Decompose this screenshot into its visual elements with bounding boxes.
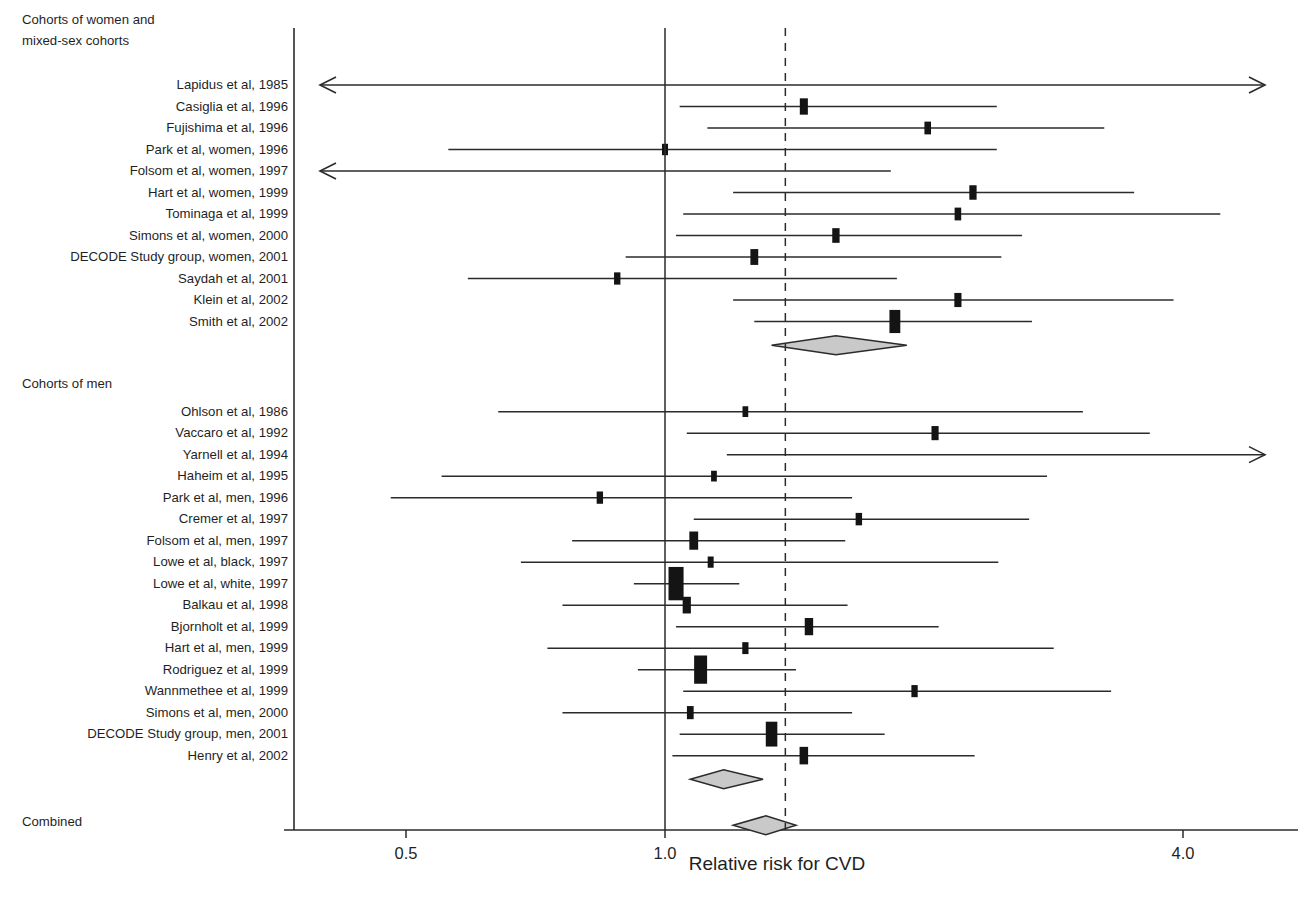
point-estimate-marker — [954, 293, 961, 307]
point-estimate-marker — [743, 406, 749, 417]
forest-row — [626, 249, 1002, 265]
forest-row — [694, 513, 1029, 525]
point-estimate-marker — [832, 228, 839, 243]
forest-row — [521, 557, 998, 568]
point-estimate-marker — [687, 706, 694, 719]
forest-row — [754, 310, 1032, 333]
point-estimate-marker — [669, 567, 684, 600]
men-summary-diamond — [690, 770, 763, 789]
point-estimate-marker — [805, 618, 813, 635]
point-estimate-marker — [911, 685, 917, 697]
point-estimate-marker — [597, 491, 603, 503]
forest-row — [468, 272, 897, 284]
forest-row — [676, 228, 1022, 243]
point-estimate-marker — [889, 310, 900, 333]
forest-row — [634, 567, 739, 600]
forest-row — [707, 122, 1104, 135]
point-estimate-marker — [856, 513, 862, 525]
forest-row — [442, 471, 1047, 482]
point-estimate-marker — [924, 122, 931, 135]
forest-row — [727, 447, 1265, 463]
forest-row — [562, 706, 852, 719]
forest-row — [391, 491, 852, 503]
point-estimate-marker — [742, 642, 748, 654]
point-estimate-marker — [711, 471, 717, 482]
forest-row — [733, 293, 1173, 307]
x-axis-title: Relative risk for CVD — [689, 853, 865, 875]
forest-plot-canvas — [0, 0, 1306, 904]
point-estimate-marker — [689, 532, 698, 550]
forest-row — [680, 722, 885, 747]
point-estimate-marker — [969, 185, 976, 199]
x-axis-tick-label: 0.5 — [395, 844, 418, 863]
forest-row — [676, 618, 939, 635]
combined-summary-diamond — [733, 816, 796, 835]
forest-row — [687, 426, 1150, 440]
point-estimate-marker — [614, 272, 620, 284]
x-axis-tick-label: 4.0 — [1172, 844, 1195, 863]
point-estimate-marker — [683, 597, 691, 614]
forest-row — [638, 656, 796, 684]
forest-row — [733, 185, 1134, 199]
women-summary-diamond — [772, 336, 907, 355]
forest-row — [448, 144, 996, 155]
forest-row — [562, 597, 847, 614]
forest-row — [680, 98, 997, 114]
forest-row — [672, 747, 974, 765]
x-axis-tick-label: 1.0 — [654, 844, 677, 863]
point-estimate-marker — [750, 249, 758, 265]
forest-row — [572, 532, 845, 550]
point-estimate-marker — [766, 722, 778, 747]
point-estimate-marker — [800, 98, 808, 114]
forest-row — [683, 685, 1111, 697]
point-estimate-marker — [800, 747, 809, 765]
forest-row — [683, 208, 1220, 221]
forest-row — [320, 163, 891, 179]
forest-row — [320, 77, 1265, 93]
point-estimate-marker — [708, 557, 714, 568]
point-estimate-marker — [694, 656, 707, 684]
point-estimate-marker — [931, 426, 938, 440]
forest-row — [547, 642, 1053, 654]
forest-row — [498, 406, 1083, 417]
point-estimate-marker — [955, 208, 962, 221]
